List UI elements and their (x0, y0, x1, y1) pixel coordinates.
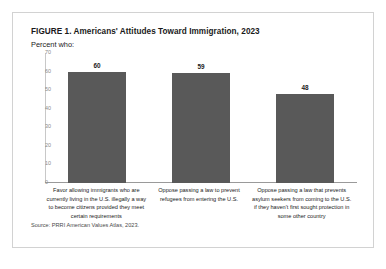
chart-plot-area: 706050403020100 605948 (31, 53, 357, 183)
bar-rect (68, 72, 126, 183)
bar-group: 48 (253, 53, 357, 183)
bars-layer: 605948 (45, 53, 357, 183)
bar-value-label: 48 (301, 84, 308, 91)
bar-value-label: 60 (93, 62, 100, 69)
bar-group: 60 (45, 53, 149, 183)
x-axis-category-label: Oppose passing a law that prevents asylu… (250, 186, 353, 220)
x-axis-category-label: Favor allowing immigrants who are curren… (45, 186, 148, 220)
bar-group: 59 (149, 53, 253, 183)
bar-rect (172, 73, 230, 183)
x-axis-category-label: Oppose passing a law to prevent refugees… (148, 186, 251, 203)
bar-value-label: 59 (197, 63, 204, 70)
figure-container: FIGURE 1. Americans' Attitudes Toward Im… (12, 12, 374, 248)
bar-rect (276, 94, 334, 183)
figure-title: FIGURE 1. Americans' Attitudes Toward Im… (31, 27, 260, 36)
figure-subtitle: Percent who: (31, 40, 74, 49)
source-note: Source: PRRI American Values Atlas, 2023… (31, 222, 139, 228)
